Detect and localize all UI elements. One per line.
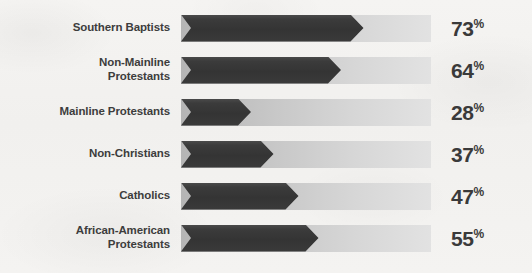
bar-value: 55% [431,228,532,249]
bar-category-label: African-American Protestants [0,224,181,251]
chart-row: Non-Mainline Protestants 64% [0,49,532,91]
bar-value-number: 55 [451,227,474,250]
bar-fill [181,15,364,42]
percent-symbol: % [474,17,485,31]
bar-track-wrapper [181,225,431,252]
percent-symbol: % [474,143,485,157]
bar-fill [181,141,274,168]
bar-category-label: Non-Mainline Protestants [0,56,181,83]
bar-fill [181,99,251,126]
bar-value-number: 47 [451,185,474,208]
bar-track-wrapper [181,99,431,126]
chart-row: Catholics 47% [0,175,532,217]
bar-value-number: 73 [451,17,474,40]
bar-category-label: Non-Christians [0,147,181,161]
chart-row: Mainline Protestants 28% [0,91,532,133]
bar-value: 37% [431,144,532,165]
bar-value: 73% [431,18,532,39]
bar-value-number: 28 [451,101,474,124]
percent-symbol: % [474,59,485,73]
percent-symbol: % [474,101,485,115]
bar-value: 28% [431,102,532,123]
bar-category-label: Catholics [0,189,181,203]
chart-row: Non-Christians 37% [0,133,532,175]
bar-category-label: Mainline Protestants [0,105,181,119]
bar-track-wrapper [181,183,431,210]
percent-symbol: % [474,185,485,199]
bar-value-number: 37 [451,143,474,166]
bar-category-label: Southern Baptists [0,21,181,35]
bar-fill [181,225,319,252]
bar-value: 47% [431,186,532,207]
horizontal-bar-chart: Southern Baptists 73% Non-Mainline Prote… [0,0,532,273]
chart-row: Southern Baptists 73% [0,7,532,49]
bar-fill [181,57,341,84]
bar-value-number: 64 [451,59,474,82]
chart-row: African-American Protestants 55% [0,217,532,259]
bar-track-wrapper [181,57,431,84]
bar-track-wrapper [181,15,431,42]
bar-fill [181,183,299,210]
bar-track-wrapper [181,141,431,168]
percent-symbol: % [474,227,485,241]
bar-value: 64% [431,60,532,81]
